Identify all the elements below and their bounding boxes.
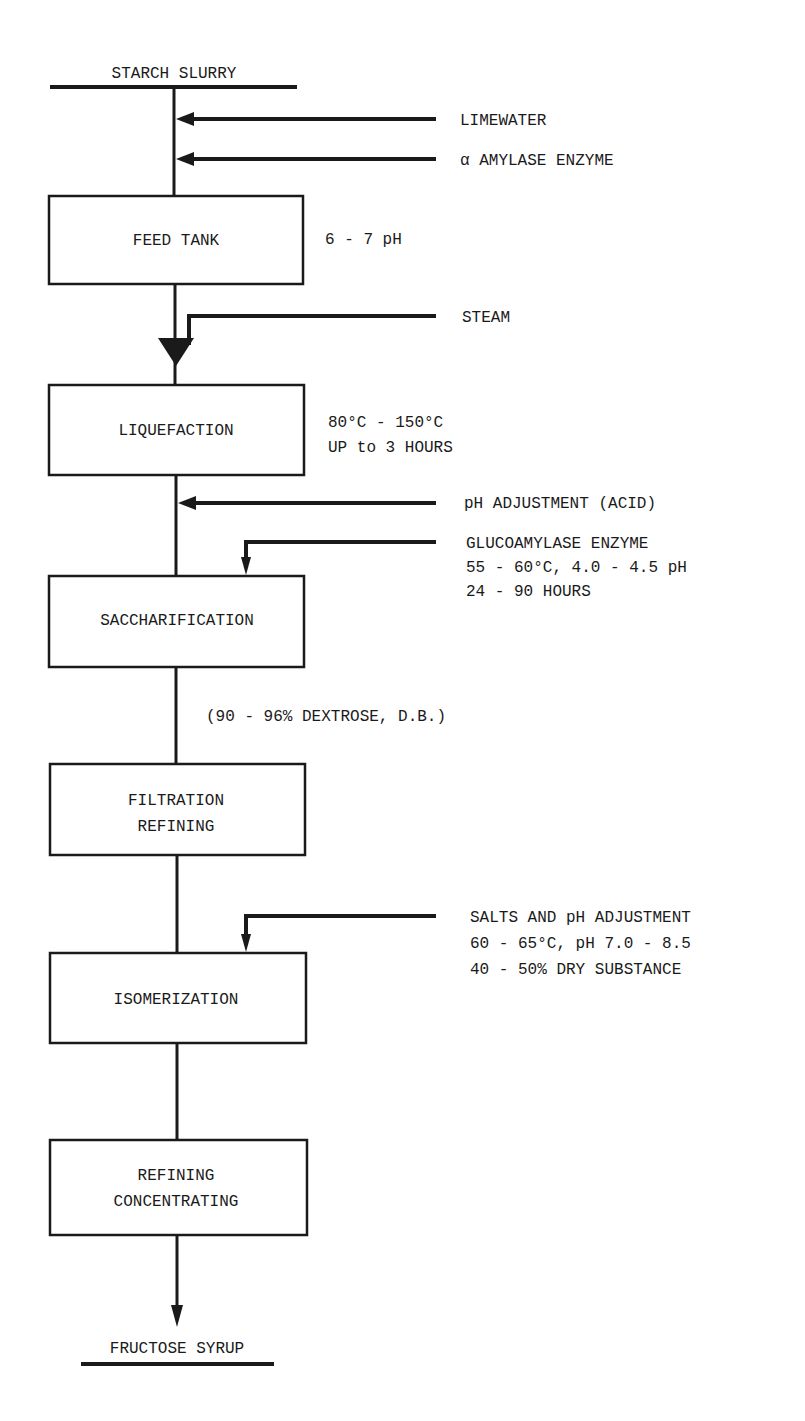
stage-label: LIQUEFACTION — [118, 422, 233, 440]
steam-input-line — [189, 316, 436, 345]
arrow-left-icon — [178, 496, 196, 510]
arrow-left-icon — [176, 112, 194, 126]
salts-input-line — [246, 916, 436, 938]
input-steam: STEAM — [462, 309, 510, 327]
arrow-down-icon — [171, 1305, 183, 1327]
stage-label: REFINING — [138, 818, 215, 836]
arrow-left-icon — [176, 152, 194, 166]
stage-note: 6 - 7 pH — [325, 231, 402, 249]
stage-note: 80°C - 150°C — [328, 414, 443, 432]
input-glucoamylase: GLUCOAMYLASE ENZYME — [466, 535, 648, 553]
stage-label: SACCHARIFICATION — [100, 612, 254, 630]
process-flowchart: STARCH SLURRY LIMEWATER α AMYLASE ENZYME… — [0, 0, 805, 1421]
input-glucoamylase-time: 24 - 90 HOURS — [466, 583, 591, 601]
glucoamylase-input-line — [246, 542, 436, 562]
stage-label: FEED TANK — [133, 232, 220, 250]
input-limewater: LIMEWATER — [460, 112, 547, 130]
input-glucoamylase-conditions: 55 - 60°C, 4.0 - 4.5 pH — [466, 559, 687, 577]
stage-label: FILTRATION — [128, 792, 224, 810]
input-salts: SALTS AND pH ADJUSTMENT — [470, 909, 691, 927]
start-label: STARCH SLURRY — [112, 65, 237, 83]
stage-refining-concentrating — [50, 1140, 307, 1235]
arrow-down-icon — [241, 934, 251, 952]
input-alpha-amylase: α AMYLASE ENZYME — [460, 152, 614, 170]
flow-annotation-dextrose: (90 - 96% DEXTROSE, D.B.) — [206, 708, 446, 726]
input-ph-acid: pH ADJUSTMENT (ACID) — [464, 495, 656, 513]
arrow-down-large-icon — [158, 338, 194, 366]
stage-label: REFINING — [138, 1167, 215, 1185]
end-label: FRUCTOSE SYRUP — [110, 1340, 244, 1358]
stage-label: ISOMERIZATION — [114, 991, 239, 1009]
stage-note: UP to 3 HOURS — [328, 439, 453, 457]
arrow-down-icon — [241, 557, 251, 575]
stage-label: CONCENTRATING — [114, 1193, 239, 1211]
input-salts-dry-substance: 40 - 50% DRY SUBSTANCE — [470, 961, 681, 979]
input-salts-conditions: 60 - 65°C, pH 7.0 - 8.5 — [470, 935, 691, 953]
